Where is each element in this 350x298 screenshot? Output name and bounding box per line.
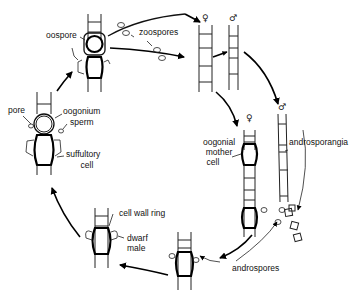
- label-oogonial-1: oogonial: [196, 138, 242, 147]
- fertilization-filament: [26, 92, 64, 175]
- life-cycle-diagram: oospore zoospores ♀ ♂ ♀ ♂ pore oogonium …: [0, 0, 350, 298]
- label-oogonial-3: cell: [196, 158, 230, 167]
- label-dwarf: dwarf: [127, 234, 148, 243]
- male-symbol-mid: ♂: [278, 103, 286, 112]
- label-androspores: androspores: [232, 264, 279, 273]
- label-male: male: [127, 244, 145, 253]
- label-cell-wall-ring: cell wall ring: [119, 209, 165, 218]
- label-androsporangia: androsporangia: [289, 138, 348, 147]
- male-filament: [229, 25, 238, 90]
- label-oogonium: oogonium: [63, 107, 100, 116]
- oogonial-mother-filament: [242, 130, 267, 237]
- male-symbol-top: ♂: [229, 14, 237, 23]
- female-symbol-mid: ♀: [246, 114, 253, 123]
- androspore-attached-filament: [169, 232, 199, 290]
- label-oospore: oospore: [46, 31, 77, 40]
- oospore-filament: [72, 14, 110, 92]
- label-sperm: sperm: [70, 118, 94, 127]
- label-oogonial-2: mother: [196, 148, 242, 157]
- label-suffultory-1: suffultory: [66, 150, 100, 159]
- female-symbol-top: ♀: [202, 14, 209, 23]
- female-filament: [199, 25, 212, 92]
- label-pore: pore: [8, 106, 25, 115]
- zoospore-path-lower: [110, 48, 184, 57]
- androsporangia-filament: [275, 114, 302, 242]
- label-suffultory-2: cell: [66, 161, 108, 170]
- label-zoospores: zoospores: [139, 28, 178, 37]
- dwarf-male-filament: [86, 208, 118, 268]
- diagram-drawing: [0, 0, 350, 298]
